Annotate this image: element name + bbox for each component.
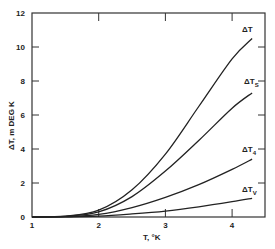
y-tick-label: 4 xyxy=(21,145,26,154)
y-tick-label: 12 xyxy=(16,9,25,18)
series-label: ΔT4 xyxy=(242,145,257,156)
y-axis-label: ΔT, m DEG K xyxy=(7,101,16,150)
y-tick-label: 8 xyxy=(21,77,26,86)
series-label: ΔT xyxy=(242,25,253,34)
x-tick-label: 1 xyxy=(30,221,35,230)
x-tick-label: 4 xyxy=(230,221,235,230)
plot-frame xyxy=(32,13,265,217)
x-tick-label: 2 xyxy=(96,221,101,230)
chart-axes xyxy=(32,13,265,217)
chart-series-labels: ΔTΔTSΔT4ΔTV xyxy=(242,25,259,197)
series-label: ΔTV xyxy=(242,185,257,196)
y-tick-label: 10 xyxy=(16,43,25,52)
chart-curves xyxy=(32,39,252,218)
series-label: ΔTS xyxy=(244,77,259,88)
line-chart: 1234024681012 ΔTΔTSΔT4ΔTV T, °K ΔT, m DE… xyxy=(0,0,275,249)
y-tick-label: 0 xyxy=(21,213,26,222)
series-curve xyxy=(32,93,252,217)
x-tick-label: 3 xyxy=(163,221,168,230)
y-tick-label: 2 xyxy=(21,179,26,188)
chart-ticks: 1234024681012 xyxy=(16,9,265,230)
y-tick-label: 6 xyxy=(21,111,26,120)
x-axis-label: T, °K xyxy=(143,233,161,242)
series-curve xyxy=(32,198,252,217)
series-curve xyxy=(32,159,252,217)
